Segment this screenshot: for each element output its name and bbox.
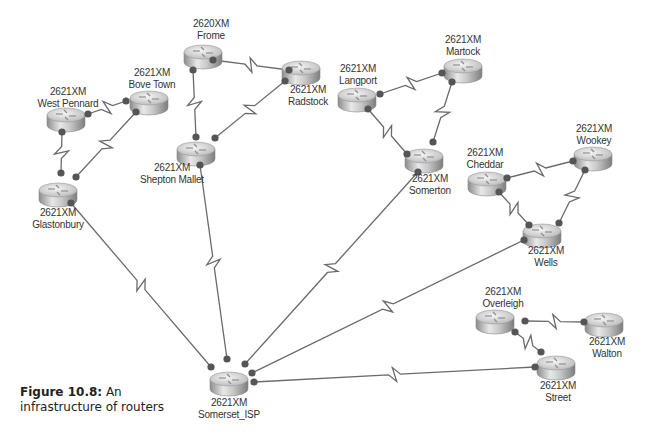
interface-endpoint-icon	[122, 97, 129, 104]
router-model: 2621XM	[483, 286, 524, 298]
router-label-radstock: 2621XMRadstock	[288, 84, 328, 108]
serial-link-glastonbury-somerset-isp	[71, 203, 211, 367]
router-model: 2621XM	[576, 123, 612, 135]
serial-link-street-somerset-isp	[254, 367, 535, 382]
router-label-overleigh: 2621XMOverleigh	[483, 286, 524, 310]
router-model: 2621XM	[339, 63, 377, 75]
router-somerset-isp-icon[interactable]	[210, 372, 248, 396]
router-label-walton: 2621XMWalton	[589, 336, 625, 360]
router-wookey-icon[interactable]	[574, 147, 612, 171]
interface-endpoint-icon	[376, 90, 383, 97]
router-model: 2621XM	[467, 147, 504, 159]
router-name: Radstock	[288, 96, 328, 108]
router-model: 2621XM	[38, 86, 99, 98]
interface-endpoint-icon	[520, 236, 527, 243]
serial-link-cheddar-wells	[499, 192, 529, 225]
router-name: West Pennard	[38, 98, 99, 110]
router-name: Street	[540, 392, 576, 404]
router-model: 2621XM	[445, 34, 481, 46]
interface-endpoint-icon	[192, 133, 199, 140]
serial-link-overleigh-walton	[525, 314, 584, 328]
serial-link-somerton-somerset-isp	[245, 172, 418, 364]
caption-text-line2: infrastructure of routers	[20, 400, 164, 414]
router-name: Wells	[528, 257, 564, 269]
interface-endpoint-icon	[537, 348, 544, 355]
router-label-west-pennard: 2621XMWest Pennard	[38, 86, 99, 110]
interface-endpoint-icon	[581, 166, 588, 173]
router-name: Bove Town	[129, 79, 176, 91]
serial-link-cheddar-wookey	[507, 161, 573, 178]
serial-link-langport-somerton	[368, 109, 407, 154]
interface-endpoint-icon	[511, 328, 518, 335]
interface-endpoint-icon	[248, 369, 255, 376]
interface-endpoint-icon	[250, 378, 257, 385]
router-name: Langport	[339, 75, 377, 87]
interface-endpoint-icon	[207, 363, 214, 370]
router-label-somerton: 2621XMSomerton	[409, 173, 451, 197]
interface-endpoint-icon	[525, 221, 532, 228]
interface-endpoint-icon	[84, 110, 91, 117]
router-model: 2621XM	[528, 245, 564, 257]
router-name: Somerset_ISP	[198, 409, 260, 421]
router-frome-icon[interactable]	[184, 45, 222, 69]
router-west-pennard-icon[interactable]	[47, 108, 85, 132]
interface-endpoint-icon	[67, 199, 74, 206]
router-model: 2621XM	[409, 173, 451, 185]
router-model: 2621XM	[140, 162, 204, 174]
router-label-cheddar: 2621XMCheddar	[467, 147, 504, 171]
router-label-wookey: 2621XMWookey	[576, 123, 612, 147]
interface-endpoint-icon	[364, 105, 371, 112]
router-label-street: 2621XMStreet	[540, 380, 576, 404]
router-street-icon[interactable]	[537, 356, 575, 380]
router-label-langport: 2621XMLangport	[339, 63, 377, 87]
figure-label: Figure 10.8:	[20, 385, 102, 399]
interface-endpoint-icon	[209, 56, 216, 63]
caption-text-line1: An	[102, 385, 122, 399]
serial-link-martock-somerton	[433, 82, 452, 142]
router-name: Martock	[445, 46, 481, 58]
router-name: Somerton	[409, 185, 451, 197]
router-name: Overleigh	[483, 298, 524, 310]
interface-endpoint-icon	[241, 360, 248, 367]
serial-link-langport-martock	[380, 73, 442, 94]
router-label-martock: 2621XMMartock	[445, 34, 481, 58]
interface-endpoint-icon	[448, 78, 455, 85]
network-diagram	[0, 0, 645, 434]
serial-link-frome-radstock	[213, 58, 289, 72]
interface-endpoint-icon	[555, 219, 562, 226]
interface-endpoint-icon	[58, 128, 65, 135]
router-label-bove-town: 2621XMBove Town	[129, 67, 176, 91]
router-name: Shepton Mallet	[140, 174, 204, 186]
router-model: 2621XM	[288, 84, 328, 96]
interface-endpoint-icon	[285, 66, 292, 73]
router-label-shepton-mallet: 2621XMShepton Mallet	[140, 162, 204, 186]
serial-link-wookey-wells	[559, 170, 585, 223]
interface-endpoint-icon	[211, 134, 218, 141]
figure-caption: Figure 10.8: An infrastructure of router…	[20, 385, 164, 415]
router-name: Walton	[589, 348, 625, 360]
router-model: 2621XM	[129, 67, 176, 79]
serial-link-shepton-mallet-somerset-isp	[200, 165, 227, 359]
interface-endpoint-icon	[531, 363, 538, 370]
interface-endpoint-icon	[503, 174, 510, 181]
interface-endpoint-icon	[403, 150, 410, 157]
interface-endpoint-icon	[429, 138, 436, 145]
router-label-frome: 2620XMFrome	[193, 18, 229, 42]
interface-endpoint-icon	[189, 66, 196, 73]
router-label-glastonbury: 2621XMGlastonbury	[32, 207, 84, 231]
serial-link-radstock-shepton-mallet	[215, 81, 285, 138]
router-model: 2620XM	[193, 18, 229, 30]
router-model: 2621XM	[540, 380, 576, 392]
router-somerton-icon[interactable]	[405, 149, 443, 173]
interface-endpoint-icon	[521, 317, 528, 324]
router-label-somerset-isp: 2621XMSomerset_ISP	[198, 397, 260, 421]
interface-endpoint-icon	[132, 108, 139, 115]
router-walton-icon[interactable]	[585, 313, 623, 337]
interface-endpoint-icon	[223, 355, 230, 362]
interface-endpoint-icon	[57, 169, 64, 176]
router-model: 2621XM	[198, 397, 260, 409]
interface-endpoint-icon	[72, 173, 79, 180]
router-model: 2621XM	[32, 207, 84, 219]
router-label-wells: 2621XMWells	[528, 245, 564, 269]
router-overleigh-icon[interactable]	[476, 310, 514, 334]
